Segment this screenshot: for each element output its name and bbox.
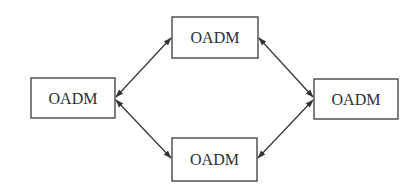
- node-right: OADM: [314, 79, 398, 119]
- node-top-label: OADM: [191, 29, 240, 46]
- link-left-top: [116, 38, 171, 97]
- node-top: OADM: [172, 17, 258, 58]
- node-bottom: OADM: [172, 138, 257, 181]
- link-bottom-right: [258, 100, 313, 158]
- link-left-bottom: [116, 100, 171, 158]
- node-right-label: OADM: [332, 91, 381, 108]
- node-left-label: OADM: [49, 90, 98, 107]
- node-bottom-label: OADM: [190, 151, 239, 168]
- node-left: OADM: [31, 78, 115, 118]
- link-top-right: [259, 38, 313, 97]
- ring-diagram: OADM OADM OADM OADM: [0, 0, 417, 195]
